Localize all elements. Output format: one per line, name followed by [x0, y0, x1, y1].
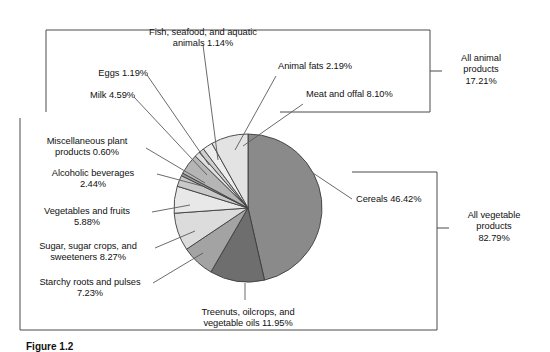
figure-caption: Figure 1.2 [26, 341, 73, 352]
label-starchy-roots: Starchy roots and pulses 7.23% [26, 277, 154, 300]
label-eggs: Eggs 1.19% [40, 68, 148, 79]
label-animal-fats: Animal fats 2.19% [278, 61, 408, 72]
leader-fish [203, 45, 218, 160]
label-sugar: Sugar, sugar crops, and sweeteners 8.27% [22, 241, 154, 264]
label-vegetables-fruits: Vegetables and fruits 5.88% [24, 206, 150, 229]
pie-slices [174, 134, 322, 282]
label-alcoholic-beverages: Alcoholic beverages 2.44% [30, 168, 156, 191]
leader-eggs [147, 75, 209, 165]
label-treenuts: Treenuts, oilcrops, and vegetable oils 1… [186, 307, 310, 330]
label-all-vegetable-products: All vegetable products 82.79% [450, 210, 538, 244]
label-misc-plant: Miscellaneous plant products 0.60% [28, 136, 146, 159]
label-milk: Milk 4.59% [28, 90, 135, 101]
leader-starchy [153, 253, 203, 283]
label-meat-offal: Meat and offal 8.10% [306, 89, 446, 100]
label-cereals: Cereals 46.42% [356, 194, 466, 205]
label-all-animal-products: All animal products 17.21% [444, 53, 518, 87]
label-fish: Fish, seafood, and aquatic animals 1.14% [108, 27, 298, 50]
